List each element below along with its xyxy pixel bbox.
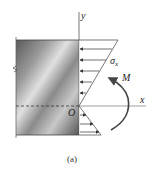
x-axis-label: x — [139, 94, 145, 105]
origin-label: O — [68, 107, 75, 118]
moment-label: M — [121, 72, 131, 83]
beam-section — [16, 40, 79, 135]
y-axis-label: y — [80, 10, 86, 21]
compression-stress-triangle — [79, 40, 118, 106]
moment-arrow-icon — [109, 78, 129, 130]
stress-label: σx — [110, 55, 119, 68]
figure-caption: (a) — [67, 154, 77, 164]
tension-stress-triangle — [79, 106, 101, 135]
bending-stress-diagram: y x O σx M (a) — [0, 0, 152, 173]
